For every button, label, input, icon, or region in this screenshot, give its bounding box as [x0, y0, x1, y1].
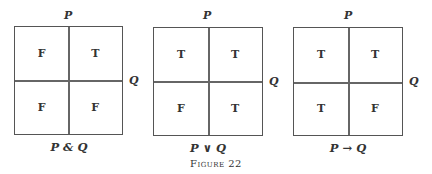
- cell-top-right: T: [348, 28, 402, 82]
- cell-bottom-right: T: [208, 82, 262, 136]
- truth-diagram-implies: P T T T F Q P → Q: [280, 0, 432, 174]
- truth-diagram-or: P T T F T Q P ∨ Q: [140, 0, 285, 174]
- truth-diagram-and: P F T F F Q P & Q: [0, 0, 140, 174]
- q-label: Q: [269, 75, 279, 88]
- cell-top-left: T: [294, 28, 348, 82]
- cell-bottom-left: F: [154, 82, 208, 136]
- cell-top-right: T: [69, 27, 123, 81]
- p-label: P: [203, 9, 211, 22]
- cell-top-left: F: [15, 27, 69, 81]
- cell-bottom-right: F: [348, 82, 402, 136]
- cell-bottom-left: T: [294, 82, 348, 136]
- cell-bottom-right: F: [69, 81, 123, 135]
- diagram-caption: P ∨ Q: [183, 141, 233, 155]
- cell-bottom-left: F: [15, 81, 69, 135]
- truth-grid: T T F T: [153, 27, 263, 136]
- q-label: Q: [409, 75, 419, 88]
- cell-top-right: T: [208, 28, 262, 82]
- truth-grid: F T F F: [14, 26, 123, 135]
- truth-grid: T T T F: [293, 27, 403, 136]
- figure-caption: Figure 22: [0, 158, 432, 169]
- diagram-caption: P & Q: [44, 140, 94, 154]
- diagram-caption: P → Q: [323, 141, 373, 155]
- p-label: P: [64, 9, 72, 22]
- p-label: P: [344, 9, 352, 22]
- q-label: Q: [129, 74, 139, 87]
- cell-top-left: T: [154, 28, 208, 82]
